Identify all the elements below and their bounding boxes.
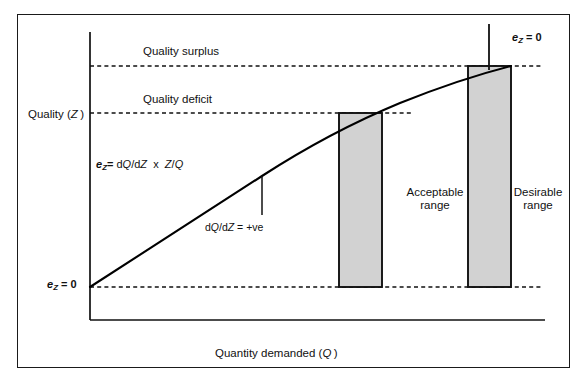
y-axis-label: Quality (Z ) xyxy=(28,108,84,121)
ez-zero-top-label: eZ = 0 xyxy=(512,31,542,45)
slope-annotation-label: dQ/dZ = +ve xyxy=(205,221,263,233)
acceptable-range-bar xyxy=(339,113,382,287)
ez-zero-left-label: eZ = 0 xyxy=(47,278,77,292)
quality-surplus-label: Quality surplus xyxy=(143,45,219,58)
quality-deficit-label: Quality deficit xyxy=(143,93,212,106)
desirable-range-bar xyxy=(468,66,511,287)
diagram-canvas xyxy=(0,0,587,382)
x-axis-label: Quantity demanded (Q ) xyxy=(215,347,338,360)
elasticity-formula-label: eZ= dQ/dZ x Z/Q xyxy=(96,158,183,172)
desirable-range-label: Desirable range xyxy=(505,186,571,212)
acceptable-range-label: Acceptable range xyxy=(399,186,471,212)
figure-container: Quality (Z ) Quantity demanded (Q ) Qual… xyxy=(0,0,587,382)
